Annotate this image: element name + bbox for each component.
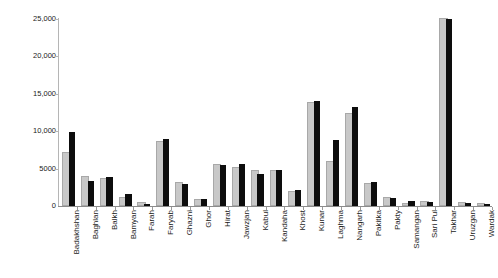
x-axis-tick-mark — [171, 207, 172, 210]
x-axis-tick-mark — [190, 207, 191, 210]
x-axis-tick-label: Faryab — [166, 144, 175, 210]
x-axis-tick-label: Kunar — [317, 144, 326, 210]
x-axis-tick-label: Bamyan — [129, 144, 138, 210]
x-axis-tick-label-text: Bamyan — [129, 210, 138, 276]
x-axis-tick-label: Farah — [147, 144, 156, 210]
x-axis-tick-label-text: Ghazni — [185, 210, 194, 276]
x-axis-tick-label-text: Kunar — [317, 210, 326, 276]
x-axis-tick-label-text: Kandaha — [280, 210, 289, 276]
x-axis-tick-mark — [322, 207, 323, 210]
x-axis-tick-mark — [303, 207, 304, 210]
x-axis-tick-label-text: Samangan — [412, 210, 421, 276]
x-axis-tick-mark — [266, 207, 267, 210]
x-axis-tick-label-text: Wardak — [487, 210, 496, 276]
y-axis-tick-label: 5000 — [12, 165, 56, 173]
y-axis-tick-label: 25,000 — [12, 15, 56, 23]
y-axis-tick-label: 10,000 — [12, 127, 56, 135]
y-axis-tick-mark — [55, 94, 58, 95]
x-axis-tick-mark — [115, 207, 116, 210]
y-axis-tick-mark — [55, 56, 58, 57]
x-axis-tick-label: Pakitka — [374, 144, 383, 210]
x-axis-tick-mark — [341, 207, 342, 210]
x-axis-tick-mark — [435, 207, 436, 210]
plot-area — [58, 19, 492, 206]
x-axis-tick-label-text: Balkh — [110, 210, 119, 276]
x-axis-tick-label-text: Nangarh — [355, 210, 364, 276]
x-axis-tick-mark — [209, 207, 210, 210]
y-axis-tick-labels: 0500010,00015,00020,00025,000 — [6, 0, 56, 278]
x-axis-tick-label: Wardak — [487, 144, 496, 210]
x-axis-tick-mark — [417, 207, 418, 210]
x-axis-tick-mark — [152, 207, 153, 210]
x-axis-tick-label: Nangarh — [355, 144, 364, 210]
x-axis-tick-label: Jawzjan — [242, 144, 251, 210]
x-axis-tick-label-text: Baghlan — [91, 210, 100, 276]
x-axis-tick-label-text: Khost — [298, 210, 307, 276]
x-axis-tick-mark — [360, 207, 361, 210]
x-axis-tick-label-text: Ghor — [204, 210, 213, 276]
y-axis-tick-label: 20,000 — [12, 52, 56, 60]
x-axis-tick-label-text: Laghma — [336, 210, 345, 276]
x-axis-tick-label: Sari Pul — [430, 144, 439, 210]
x-axis-tick-mark — [247, 207, 248, 210]
x-axis-tick-label-text: Farah — [147, 210, 156, 276]
x-axis-tick-label-text: Pakitka — [374, 210, 383, 276]
x-axis-tick-label: Samangan — [412, 144, 421, 210]
y-axis-tick-mark — [55, 131, 58, 132]
x-axis-tick-mark — [379, 207, 380, 210]
x-axis-tick-label-text: Faryab — [166, 210, 175, 276]
x-axis-tick-label-text: Sari Pul — [430, 210, 439, 276]
x-axis-line — [58, 206, 492, 207]
y-axis-tick-mark — [55, 169, 58, 170]
x-axis-tick-mark — [96, 207, 97, 210]
x-axis-tick-label: Ghor — [204, 144, 213, 210]
x-axis-tick-label: Ghazni — [185, 144, 194, 210]
x-axis-tick-label-text: Pakty — [393, 210, 402, 276]
x-axis-tick-label-text: Takhar — [449, 210, 458, 276]
x-axis-tick-label-text: Kabul — [261, 210, 270, 276]
malaria-cases-bar-chart: Number of Malaria Cases 0500010,00015,00… — [0, 0, 498, 278]
y-axis-tick-label: 15,000 — [12, 90, 56, 98]
x-axis-tick-label: Hirat — [223, 144, 232, 210]
x-axis-tick-mark — [492, 207, 493, 210]
x-axis-tick-mark — [454, 207, 455, 210]
x-axis-tick-mark — [398, 207, 399, 210]
x-axis-tick-mark — [77, 207, 78, 210]
x-axis-tick-label: Badakhshan — [72, 144, 81, 210]
x-axis-tick-mark — [133, 207, 134, 210]
x-axis-tick-mark — [473, 207, 474, 210]
y-axis-tick-mark — [55, 19, 58, 20]
x-axis-tick-label: Laghma — [336, 144, 345, 210]
x-axis-tick-label: Baghlan — [91, 144, 100, 210]
x-axis-tick-label-text: Badakhshan — [72, 210, 81, 276]
x-axis-tick-label-text: Uruzgan — [468, 210, 477, 276]
x-axis-tick-label: Uruzgan — [468, 144, 477, 210]
x-axis-tick-label: Kandaha — [280, 144, 289, 210]
x-axis-tick-label: Khost — [298, 144, 307, 210]
x-axis-tick-mark — [228, 207, 229, 210]
y-axis-tick-label: 0 — [12, 202, 56, 210]
x-axis-tick-label-text: Hirat — [223, 210, 232, 276]
x-axis-tick-label: Takhar — [449, 144, 458, 210]
x-axis-tick-label: Pakty — [393, 144, 402, 210]
x-axis-tick-label: Balkh — [110, 144, 119, 210]
x-axis-tick-mark — [284, 207, 285, 210]
x-axis-tick-label-text: Jawzjan — [242, 210, 251, 276]
x-axis-tick-label: Kabul — [261, 144, 270, 210]
